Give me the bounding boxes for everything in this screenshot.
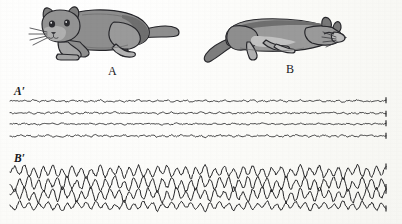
eeg-trace [10,100,386,103]
eeg-trace [10,200,386,212]
eeg-trace [10,123,386,125]
eeg-trace [10,176,386,193]
eeg-trace [10,134,386,137]
eeg-traces-svg [0,0,402,224]
eeg-trace [10,112,386,115]
figure-root: A [0,0,402,224]
eeg-trace [10,186,386,203]
eeg-traces-panel [0,0,402,224]
